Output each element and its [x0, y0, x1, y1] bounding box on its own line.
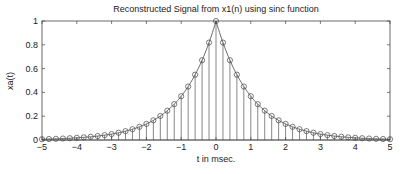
x-tick-label: 3	[318, 142, 323, 152]
x-tick-label: −3	[106, 142, 116, 152]
x-tick-label: 4	[353, 142, 358, 152]
x-tick-label: 0	[213, 142, 218, 152]
y-tick-label: 0	[33, 135, 38, 145]
y-tick-label: 0.8	[25, 40, 38, 50]
y-axis-label: xa(t)	[5, 72, 15, 90]
chart-title: Reconstructed Signal from x1(n) using si…	[113, 4, 319, 14]
y-tick-label: 1	[33, 16, 38, 26]
x-tick-label: 2	[283, 142, 288, 152]
y-tick-label: 0.6	[25, 64, 38, 74]
x-tick-label: −2	[141, 142, 151, 152]
x-axis-ticks: −5−4−3−2−1012345	[37, 21, 393, 152]
stem-chart: Reconstructed Signal from x1(n) using si…	[0, 0, 404, 174]
y-tick-label: 0.2	[25, 111, 38, 121]
stem-series	[39, 18, 392, 141]
x-tick-label: −5	[37, 142, 47, 152]
x-tick-label: 1	[248, 142, 253, 152]
x-tick-label: 5	[387, 142, 392, 152]
y-axis-ticks: 00.20.40.60.81	[25, 16, 390, 145]
x-tick-label: −1	[176, 142, 186, 152]
y-tick-label: 0.4	[25, 87, 38, 97]
x-axis-label: t in msec.	[197, 154, 236, 164]
x-tick-label: −4	[72, 142, 82, 152]
